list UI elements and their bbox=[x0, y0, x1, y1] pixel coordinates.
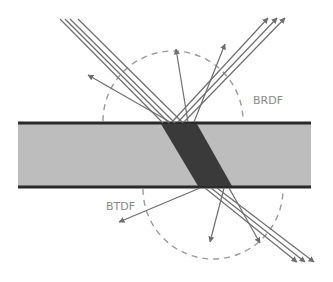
specular-transmitted-ray bbox=[205, 188, 297, 262]
btdf-lobe bbox=[143, 189, 283, 259]
scattering-diagram: BRDF BTDF bbox=[0, 0, 333, 282]
brdf-label: BRDF bbox=[253, 94, 283, 107]
slab bbox=[18, 122, 311, 188]
incident-ray bbox=[78, 19, 183, 123]
brdf-lobe bbox=[103, 51, 243, 121]
incident-rays bbox=[60, 19, 183, 123]
diffuse-transmitted-ray bbox=[229, 188, 260, 243]
incident-ray bbox=[70, 19, 175, 123]
diffuse-transmitted-ray bbox=[210, 188, 224, 242]
specular-transmitted-ray bbox=[217, 188, 314, 262]
btdf-label: BTDF bbox=[106, 200, 135, 213]
incident-ray bbox=[60, 19, 163, 123]
incident-ray bbox=[65, 19, 169, 123]
specular-transmitted-ray bbox=[211, 188, 305, 262]
